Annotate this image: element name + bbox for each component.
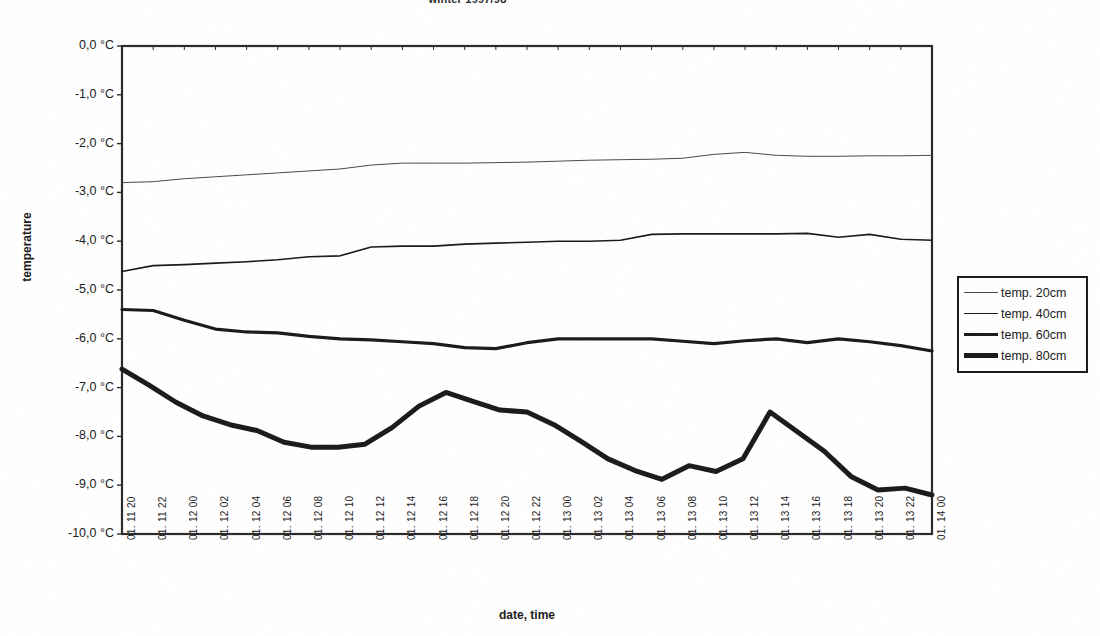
legend-line-swatch-icon xyxy=(964,353,998,358)
legend-item[interactable]: temp. 80cm xyxy=(959,345,1086,366)
legend-line-swatch-icon xyxy=(964,333,998,336)
legend-item[interactable]: temp. 60cm xyxy=(959,324,1086,345)
legend-line-swatch-icon xyxy=(964,292,998,293)
legend-line-swatch-icon xyxy=(964,313,998,315)
series-line-temp-40cm xyxy=(122,233,932,271)
legend-item[interactable]: temp. 40cm xyxy=(959,303,1086,324)
series-line-temp-80cm xyxy=(122,369,932,495)
plot-area xyxy=(0,0,1100,636)
legend-label: temp. 80cm xyxy=(998,349,1066,363)
plot-frame xyxy=(122,46,932,534)
legend-label: temp. 60cm xyxy=(998,328,1066,342)
legend-item[interactable]: temp. 20cm xyxy=(959,282,1086,303)
legend: temp. 20cmtemp. 40cmtemp. 60cmtemp. 80cm xyxy=(957,276,1088,373)
legend-label: temp. 20cm xyxy=(998,286,1066,300)
temperature-line-chart: winter 1997/98 temperature date, time 0,… xyxy=(0,0,1100,636)
series-line-temp-20cm xyxy=(122,152,932,182)
series-line-temp-60cm xyxy=(122,310,932,351)
legend-label: temp. 40cm xyxy=(998,307,1066,321)
